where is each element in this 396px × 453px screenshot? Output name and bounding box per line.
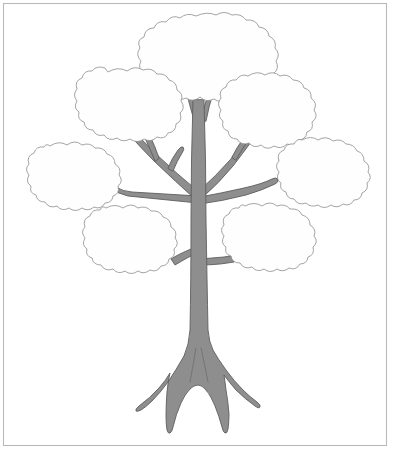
- foliage-upper-left: [75, 67, 184, 142]
- foliage-mid-left: [27, 142, 122, 211]
- tree-illustration: 雲兒: [0, 0, 396, 453]
- page-root: 雲兒: [0, 0, 396, 453]
- trunk-label: 雲兒: [187, 391, 211, 405]
- branch-left-sub: [168, 147, 184, 171]
- foliage-upper-right: [219, 73, 317, 149]
- foliage-mid-right: [277, 138, 371, 208]
- foliage-lower-left: [83, 205, 178, 274]
- foliage-lower-right: [222, 203, 317, 272]
